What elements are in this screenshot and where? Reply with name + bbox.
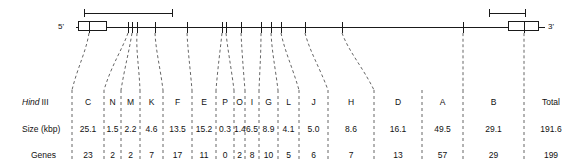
cell-fragment-h: H [328, 98, 374, 107]
cell-genes-g: 10 [259, 151, 278, 160]
cell-genes-i: 8 [245, 151, 259, 160]
cell-size-b: 29.1 [463, 125, 524, 134]
enzyme-name-roman: III [41, 97, 48, 107]
map-vector-layer [0, 0, 580, 166]
cell-fragment-m: M [121, 98, 140, 107]
cell-fragment-j: J [299, 98, 328, 107]
row-label-genes: Genes [31, 151, 56, 160]
leader-lines [72, 33, 524, 90]
cell-genes-c: 23 [72, 151, 104, 160]
cell-size-i: 6.5 [245, 125, 259, 134]
cell-fragment-l: L [278, 98, 299, 107]
cell-genes-m: 2 [121, 151, 140, 160]
cell-genes-e: 11 [192, 151, 216, 160]
row-label-size: Size (kbp) [22, 125, 60, 134]
cell-fragment-g: G [259, 98, 278, 107]
cell-fragment-i: I [245, 98, 259, 107]
left-terminal-repeat-box [78, 21, 106, 30]
cell-size-l: 4.1 [278, 125, 299, 134]
cell-size-g: 8.9 [259, 125, 278, 134]
cell-size-total: 191.6 [524, 125, 578, 134]
cell-fragment-d: D [374, 98, 422, 107]
cell-fragment-a: A [422, 98, 463, 107]
row-label-enzyme: HindIII [22, 98, 49, 107]
cell-size-j: 5.0 [299, 125, 328, 134]
cell-fragment-k: K [140, 98, 163, 107]
cell-genes-h: 7 [328, 151, 374, 160]
cell-genes-d: 13 [374, 151, 422, 160]
enzyme-name-italic: Hind [22, 97, 39, 107]
cell-genes-total: 199 [524, 151, 578, 160]
cell-fragment-c: C [72, 98, 104, 107]
cell-size-f: 13.5 [163, 125, 192, 134]
cell-genes-o: 2 [234, 151, 245, 160]
cell-fragment-p: P [216, 98, 234, 107]
three-prime-label: 3' [548, 23, 554, 31]
cell-fragment-e: E [192, 98, 216, 107]
cell-fragment-b: B [463, 98, 524, 107]
genome-restriction-map-figure: 5' 3' HindIII Size (kbp) Genes C25.123N1… [0, 0, 580, 166]
cell-size-c: 25.1 [72, 125, 104, 134]
cell-size-m: 2.2 [121, 125, 140, 134]
cell-fragment-n: N [104, 98, 121, 107]
cell-size-k: 4.6 [140, 125, 163, 134]
cell-fragment-total: Total [524, 98, 578, 107]
cell-size-h: 8.6 [328, 125, 374, 134]
cell-size-o: 1.4 [234, 125, 245, 134]
cell-genes-n: 2 [104, 151, 121, 160]
cell-fragment-f: F [163, 98, 192, 107]
cell-genes-f: 17 [163, 151, 192, 160]
cell-size-e: 15.2 [192, 125, 216, 134]
cell-size-d: 16.1 [374, 125, 422, 134]
cell-size-a: 49.5 [422, 125, 463, 134]
right-scale-bar [489, 9, 525, 17]
five-prime-label: 5' [58, 23, 64, 31]
cell-genes-j: 6 [299, 151, 328, 160]
cell-fragment-o: O [234, 98, 245, 107]
right-terminal-repeat-box [508, 21, 538, 30]
cell-size-n: 1.5 [104, 125, 121, 134]
cell-genes-l: 5 [278, 151, 299, 160]
cell-genes-k: 7 [140, 151, 163, 160]
cell-size-p: 0.3 [216, 125, 234, 134]
left-scale-bar [84, 9, 172, 17]
cell-genes-a: 57 [422, 151, 463, 160]
cell-genes-b: 29 [463, 151, 524, 160]
cell-genes-p: 0 [216, 151, 234, 160]
